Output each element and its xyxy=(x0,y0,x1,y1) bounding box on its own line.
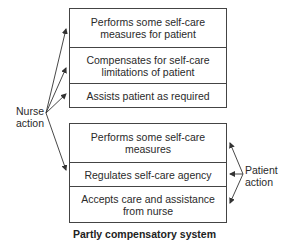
patient-item-3-line2: from nurse xyxy=(123,205,173,218)
nurse-item-3-line1: Assists patient as required xyxy=(86,90,209,103)
nurse-item-1-line2: measures for patient xyxy=(100,28,196,41)
patient-item-3-line1: Accepts care and assistance xyxy=(81,193,215,206)
arrow-nurse-to-item-2 xyxy=(46,68,66,113)
patient-item-1: Performs some self-care measures xyxy=(70,124,226,162)
patient-action-label-line2: action xyxy=(245,176,278,188)
patient-item-2: Regulates self-care agency xyxy=(70,162,226,187)
nurse-item-1: Performs some self-care measures for pat… xyxy=(70,9,226,47)
nurse-item-2: Compensates for self-care limitations of… xyxy=(70,47,226,84)
patient-item-1-line2: measures xyxy=(125,143,171,156)
nurse-action-box: Performs some self-care measures for pat… xyxy=(69,8,227,108)
nurse-item-2-line1: Compensates for self-care xyxy=(86,54,209,67)
patient-action-label: Patient action xyxy=(245,164,278,188)
patient-item-3: Accepts care and assistance from nurse xyxy=(70,186,226,223)
arrow-nurse-to-item-3 xyxy=(46,94,66,113)
nurse-item-3: Assists patient as required xyxy=(70,83,226,108)
arrow-patient-to-item-3 xyxy=(230,174,243,203)
arrow-patient-to-item-1 xyxy=(230,143,243,174)
nurse-item-1-line1: Performs some self-care xyxy=(91,16,205,29)
patient-item-2-line1: Regulates self-care agency xyxy=(84,169,211,182)
nurse-action-label: Nurse action xyxy=(14,105,46,129)
arrow-nurse-to-item-1 xyxy=(46,29,66,113)
nurse-action-label-line1: Nurse xyxy=(14,105,46,117)
diagram-caption: Partly compensatory system xyxy=(0,228,289,240)
patient-item-1-line1: Performs some self-care xyxy=(91,131,205,144)
patient-action-box: Performs some self-care measures Regulat… xyxy=(69,123,227,223)
patient-action-label-line1: Patient xyxy=(245,164,278,176)
nurse-item-2-line2: limitations of patient xyxy=(102,66,195,79)
nurse-action-label-line2: action xyxy=(14,117,46,129)
arrow-nurse-to-patient-box xyxy=(46,113,66,170)
